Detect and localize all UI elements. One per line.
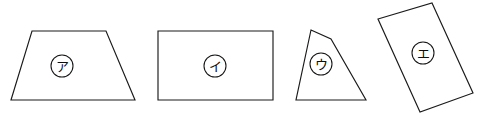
shape-label-b: イ [209, 59, 222, 74]
shapes-diagram: ア イ ウ エ [0, 0, 480, 127]
shape-label-c: ウ [315, 57, 328, 72]
shape-group-d[interactable]: エ [378, 3, 473, 112]
shape-group-c[interactable]: ウ [296, 30, 366, 100]
shape-group-b[interactable]: イ [158, 31, 273, 100]
shape-group-a[interactable]: ア [11, 31, 135, 100]
shape-label-a: ア [56, 59, 69, 74]
shape-label-d: エ [417, 46, 430, 61]
geometry-figure-canvas: ア イ ウ エ [0, 0, 480, 127]
